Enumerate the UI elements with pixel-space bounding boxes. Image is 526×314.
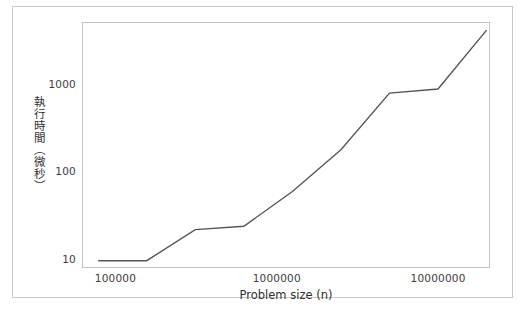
- chart-page: 101001000 100000100000010000000 Problem …: [0, 0, 526, 314]
- plot-canvas: [82, 22, 490, 268]
- x-tick-label: 10000000: [411, 272, 466, 284]
- y-tick-label: 1000: [48, 78, 76, 90]
- x-tick-label: 100000: [95, 272, 136, 284]
- y-axis-label: 執行時間（微秒）: [26, 96, 44, 192]
- data-series-line: [98, 30, 486, 261]
- y-tick-label: 100: [55, 165, 76, 177]
- x-axis-label: Problem size (n): [82, 288, 490, 302]
- x-tick-label: 1000000: [253, 272, 301, 284]
- y-tick-label: 10: [62, 253, 76, 265]
